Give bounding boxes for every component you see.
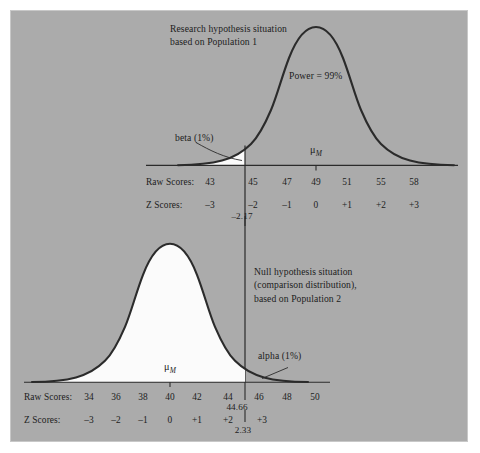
top-raw-value: 45 (248, 176, 258, 189)
alpha-label: alpha (1%) (258, 349, 301, 362)
bottom-raw-value: 50 (310, 391, 320, 404)
null-caption-line-1: Null hypothesis situation (254, 265, 357, 278)
bottom-raw-value: 40 (165, 391, 175, 404)
bottom-z-value: 0 (168, 414, 173, 427)
bottom-raw-scores-row-label: Raw Scores: (24, 391, 72, 404)
top-z-value: +2 (376, 199, 386, 212)
distribution-plot (0, 0, 480, 453)
bottom-z-value: –1 (138, 414, 148, 427)
beta-label: beta (1%) (175, 131, 213, 144)
bottom-cutoff-z-annotation: 2.33 (235, 424, 251, 437)
null-distribution-fill (32, 244, 245, 382)
bottom-raw-value: 46 (254, 391, 264, 404)
bottom-z-value: +3 (257, 414, 267, 427)
top-raw-value: 55 (376, 176, 386, 189)
bottom-cutoff-raw-annotation: 44.66 (226, 401, 247, 414)
null-hypothesis-caption: Null hypothesis situation (comparison di… (254, 265, 357, 305)
top-z-value: +3 (409, 199, 419, 212)
research-caption-line-1: Research hypothesis situation (170, 22, 287, 35)
top-z-value: –1 (282, 199, 292, 212)
top-cutoff-z-annotation: –2.17 (231, 210, 252, 223)
top-z-value: +1 (342, 199, 352, 212)
bottom-z-value: +1 (192, 414, 202, 427)
bottom-raw-value: 42 (192, 391, 202, 404)
top-raw-value: 43 (205, 176, 215, 189)
bottom-raw-value: 36 (111, 391, 121, 404)
null-caption-line-3: based on Population 2 (254, 292, 357, 305)
bottom-z-value: –2 (111, 414, 121, 427)
research-hypothesis-caption: Research hypothesis situation based on P… (170, 22, 287, 49)
research-caption-line-2: based on Population 1 (170, 35, 287, 48)
bottom-z-value: +2 (223, 414, 233, 427)
bottom-z-value: –3 (84, 414, 94, 427)
null-caption-line-2: (comparison distribution), (254, 278, 357, 291)
top-z-value: 0 (314, 199, 319, 212)
bottom-raw-value: 48 (282, 391, 292, 404)
bottom-mu-subscript: M (170, 366, 176, 375)
top-z-value: –3 (205, 199, 215, 212)
power-label: Power = 99% (289, 69, 342, 82)
top-raw-value: 49 (311, 176, 321, 189)
alpha-leader-line (262, 368, 288, 379)
bottom-z-scores-row-label: Z Scores: (24, 414, 61, 427)
bottom-raw-value: 34 (84, 391, 94, 404)
top-mean-label: μM (310, 143, 322, 160)
top-raw-value: 51 (342, 176, 352, 189)
top-z-scores-row-label: Z Scores: (146, 199, 183, 212)
figure-container: Research hypothesis situation based on P… (0, 0, 480, 453)
top-raw-value: 58 (409, 176, 419, 189)
bottom-mean-label: μM (164, 360, 176, 377)
bottom-raw-value: 38 (138, 391, 148, 404)
top-raw-value: 47 (282, 176, 292, 189)
top-raw-scores-row-label: Raw Scores: (146, 176, 194, 189)
top-mu-subscript: M (316, 149, 322, 158)
